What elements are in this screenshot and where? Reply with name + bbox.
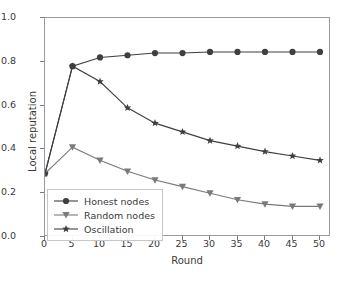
legend-item-honest-nodes[interactable]: Honest nodes <box>53 194 155 208</box>
chart-figure: Local reputation Round 0.00.20.40.60.81.… <box>0 0 350 282</box>
x-tick-label: 40 <box>249 239 279 249</box>
series-honest-nodes <box>45 49 323 177</box>
legend-label: Honest nodes <box>84 196 149 207</box>
x-tick-label: 25 <box>167 239 197 249</box>
x-axis-label: Round <box>44 255 330 266</box>
y-tick-label: 1.0 <box>0 17 16 27</box>
data-point-marker <box>316 156 324 163</box>
y-tick-label: 0.6 <box>0 105 16 115</box>
data-point-marker <box>261 148 269 155</box>
data-point-marker <box>234 49 240 55</box>
y-tick-label: 0.8 <box>0 61 16 71</box>
y-tick-label: 0.2 <box>0 192 16 202</box>
data-point-marker <box>97 54 103 60</box>
legend-label: Random nodes <box>84 210 155 221</box>
data-point-marker <box>289 49 295 55</box>
data-point-marker <box>179 128 187 135</box>
x-tick-label: 50 <box>304 239 334 249</box>
y-tick-label: 0.4 <box>0 148 16 158</box>
series-oscillation <box>45 62 324 177</box>
x-tick-label: 45 <box>277 239 307 249</box>
legend-marker-sample <box>53 209 79 221</box>
legend-marker-sample <box>53 223 79 235</box>
data-point-marker <box>96 157 103 163</box>
x-tick-label: 30 <box>194 239 224 249</box>
x-tick-label: 35 <box>222 239 252 249</box>
y-axis-label: Local reputation <box>27 52 38 212</box>
data-point-marker <box>179 50 185 56</box>
data-point-marker <box>317 49 323 55</box>
data-point-marker <box>206 137 214 144</box>
legend-marker-sample <box>53 195 79 207</box>
data-point-marker <box>63 198 69 204</box>
data-point-marker <box>151 119 159 126</box>
series-line <box>45 66 320 173</box>
y-tick-label: 0.0 <box>0 236 16 246</box>
data-point-marker <box>152 50 158 56</box>
legend-item-oscillation[interactable]: Oscillation <box>53 222 155 236</box>
data-point-marker <box>262 49 268 55</box>
data-point-marker <box>234 142 242 149</box>
data-point-marker <box>124 52 130 58</box>
chart-legend: Honest nodesRandom nodesOscillation <box>47 189 163 241</box>
legend-label: Oscillation <box>84 224 134 235</box>
data-point-marker <box>289 152 297 159</box>
series-line <box>45 52 320 174</box>
data-point-marker <box>207 49 213 55</box>
legend-item-random-nodes[interactable]: Random nodes <box>53 208 155 222</box>
data-point-marker <box>62 225 70 232</box>
